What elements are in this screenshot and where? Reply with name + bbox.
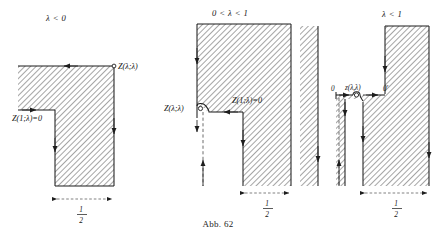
condition-label-1: λ < 0 [45,13,66,23]
branch-point-marker-2 [198,106,202,110]
condition-label-2: 0 < λ < 1 [212,8,248,18]
dimension-denominator-3: 2 [394,210,398,219]
hatched-region-3-left [300,26,318,186]
origin-prime-label-3: 0' [383,85,389,93]
dimension-numerator-1: 1 [79,205,83,214]
dimension-denominator-1: 2 [79,216,83,225]
branch-point-label-3: z(λ,λ) [344,84,361,92]
hatched-region-2 [197,24,291,186]
branch-point-label-2: Z(λ;λ) [164,104,184,113]
condition-label-3: λ < 1 [381,9,402,19]
figure-abb-62: Z(λ;λ) Z(1;λ)=0 λ < 0 1 2 [0,0,436,239]
branch-point-marker-3 [354,93,358,97]
panel-lambda-negative: Z(λ;λ) Z(1;λ)=0 λ < 0 1 2 [12,13,138,225]
corner-point-label-1: Z(λ;λ) [118,62,138,71]
origin-label-3: 0 [331,85,335,93]
panel-lambda-less-than-one: 0 z(λ,λ) 0' λ < 1 1 2 [300,9,429,219]
hatched-region-1 [18,66,114,186]
corner-point-marker-1 [112,64,116,68]
panel-lambda-between-zero-and-one: Z(λ;λ) Z(1;λ)=0 0 < λ < 1 1 2 [164,8,291,219]
dimension-denominator-2: 2 [265,210,269,219]
figure-caption: Abb. 62 [202,219,233,229]
dimension-numerator-2: 1 [265,199,269,208]
inner-edge-label-1: Z(1;λ)=0 [12,114,42,123]
hatched-region-3-right [336,26,429,186]
dimension-numerator-3: 1 [394,199,398,208]
figure-canvas: Z(λ;λ) Z(1;λ)=0 λ < 0 1 2 [0,0,436,239]
inner-edge-label-2: Z(1;λ)=0 [232,96,262,105]
